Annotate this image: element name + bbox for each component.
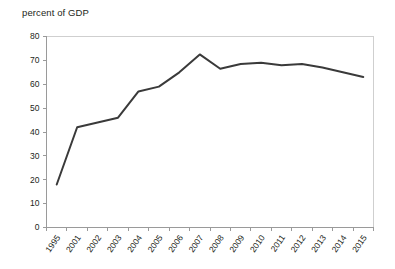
x-tick-label: 2004 — [125, 233, 144, 254]
x-tick-label: 2011 — [268, 233, 287, 254]
x-tick-label: 1995 — [43, 233, 62, 254]
x-tick-label: 2001 — [64, 233, 83, 254]
x-tick-label: 2007 — [186, 233, 205, 254]
x-tick-label: 2010 — [248, 233, 267, 254]
x-tick-label: 2012 — [289, 233, 308, 254]
x-tick-label: 2002 — [84, 233, 103, 254]
x-tick-label: 2008 — [207, 233, 226, 254]
plot-axes — [47, 37, 374, 228]
y-tick-label: 80 — [30, 31, 40, 41]
x-tick-label: 2006 — [166, 233, 185, 254]
y-tick-label: 60 — [30, 79, 40, 89]
plot-frame — [47, 37, 374, 228]
y-tick-label: 30 — [30, 151, 40, 161]
x-axis-ticks: 1995200120022003200420052006200720082009… — [43, 228, 373, 255]
y-tick-label: 40 — [30, 127, 40, 137]
y-tick-label: 50 — [30, 103, 40, 113]
chart-container: percent of GDP 01020304050607080 1995200… — [0, 0, 395, 269]
line-chart-plot: 01020304050607080 1995200120022003200420… — [0, 0, 395, 269]
y-tick-label: 70 — [30, 55, 40, 65]
x-tick-label: 2005 — [145, 233, 164, 254]
y-axis-ticks: 01020304050607080 — [30, 31, 46, 232]
x-tick-label: 2009 — [227, 233, 246, 254]
x-tick-label: 2015 — [350, 233, 369, 254]
data-series-line — [57, 54, 364, 184]
y-tick-label: 0 — [35, 222, 40, 232]
x-tick-label: 2014 — [329, 233, 348, 254]
y-tick-label: 10 — [30, 198, 40, 208]
x-tick-label: 2003 — [105, 233, 124, 254]
x-tick-label: 2013 — [309, 233, 328, 254]
y-tick-label: 20 — [30, 175, 40, 185]
